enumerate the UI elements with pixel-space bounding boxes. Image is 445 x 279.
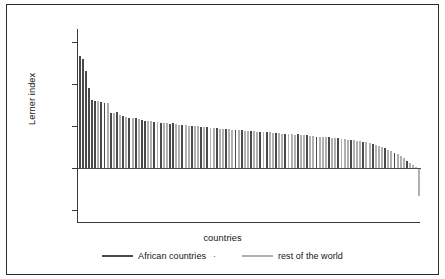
bar — [200, 127, 202, 168]
bar — [256, 132, 258, 168]
bar — [113, 113, 115, 168]
bar — [247, 131, 249, 168]
bar — [160, 123, 162, 169]
bar — [110, 113, 112, 168]
bar — [331, 138, 333, 169]
bar — [337, 138, 339, 168]
bar — [119, 115, 121, 168]
bar — [175, 124, 177, 168]
legend-swatch-african — [102, 255, 133, 257]
y-axis-title: Lerner index — [27, 73, 37, 125]
bar — [303, 135, 305, 168]
bar — [359, 141, 361, 168]
bar — [312, 136, 314, 168]
bar — [347, 140, 349, 169]
bar — [294, 135, 296, 169]
bar — [322, 137, 324, 168]
plot-area — [77, 29, 420, 223]
bar — [378, 146, 380, 168]
bar — [353, 140, 355, 168]
bar — [97, 101, 99, 168]
bar — [194, 126, 196, 168]
bar — [116, 112, 118, 169]
bar — [225, 129, 227, 168]
bar — [141, 120, 143, 168]
bar — [125, 117, 127, 169]
bar — [91, 100, 93, 168]
figure-border: Lerner index 0.60.40.20−0.2 countries Af… — [6, 4, 439, 275]
x-axis-title: countries — [7, 233, 438, 243]
bar — [147, 121, 149, 168]
bar — [259, 132, 261, 168]
bar — [344, 139, 346, 168]
bar — [144, 121, 146, 169]
bar — [100, 102, 102, 168]
bar — [219, 129, 221, 169]
bar — [122, 116, 124, 168]
bar — [272, 133, 274, 168]
bar — [300, 135, 302, 168]
bar-series — [78, 29, 421, 223]
bar — [325, 137, 327, 168]
bar — [381, 147, 383, 168]
figure-container: Lerner index 0.60.40.20−0.2 countries Af… — [0, 0, 445, 279]
bar — [269, 132, 271, 168]
bar — [316, 137, 318, 169]
bar — [206, 127, 208, 168]
bar — [356, 141, 358, 168]
bar — [418, 168, 420, 195]
bar — [275, 133, 277, 168]
bar — [153, 122, 155, 168]
bar — [319, 137, 321, 168]
legend-item-african: African countries · — [102, 251, 216, 261]
bar — [163, 123, 165, 168]
bar — [306, 135, 308, 168]
bar — [309, 136, 311, 168]
bar — [263, 132, 265, 168]
bar — [334, 138, 336, 168]
legend-label-african: African countries — [138, 251, 206, 261]
bar — [150, 121, 152, 168]
bar — [397, 154, 399, 168]
bar — [231, 130, 233, 168]
bar — [365, 142, 367, 168]
bar — [166, 123, 168, 168]
bar — [253, 131, 255, 168]
bar — [138, 119, 140, 168]
bar — [88, 88, 90, 168]
zero-baseline — [78, 168, 421, 169]
bar — [372, 144, 374, 168]
bar — [375, 145, 377, 168]
bar — [244, 131, 246, 169]
bar — [216, 128, 218, 168]
bar — [128, 118, 130, 169]
bar — [341, 139, 343, 169]
bar — [157, 122, 159, 168]
bar — [284, 134, 286, 168]
bar — [85, 71, 87, 168]
bar — [172, 123, 174, 168]
bar — [94, 101, 96, 168]
bar — [188, 126, 190, 169]
bar — [169, 124, 171, 168]
bar — [291, 134, 293, 168]
bar — [203, 127, 205, 168]
bar — [384, 148, 386, 168]
bar — [222, 129, 224, 168]
bar — [390, 151, 392, 168]
bar — [104, 103, 106, 168]
bar — [288, 134, 290, 168]
bar — [210, 128, 212, 168]
bar — [400, 156, 402, 168]
bar — [387, 150, 389, 169]
bar — [235, 130, 237, 168]
bar — [132, 118, 134, 168]
bar — [178, 125, 180, 168]
bar — [135, 118, 137, 168]
bar — [185, 125, 187, 168]
bar — [369, 143, 371, 168]
chart-legend: African countries · rest of the world — [7, 251, 438, 261]
bar — [278, 133, 280, 168]
bar — [107, 103, 109, 168]
bar — [238, 130, 240, 168]
